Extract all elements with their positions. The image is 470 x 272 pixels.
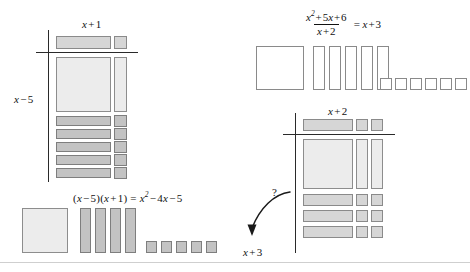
fraction-numerator: x2 + 5x + 6 — [303, 10, 350, 24]
tile-unit-square — [356, 194, 368, 206]
tile-unit-square — [371, 226, 383, 238]
tile-unit-square — [410, 78, 422, 90]
bottom-right-width-label: x + 2 — [328, 105, 347, 117]
tile-x-bar-vertical — [361, 46, 373, 90]
tile-unit-square — [356, 119, 368, 131]
bottom-right-horizontal-axis — [283, 134, 395, 135]
tile-unit-square — [440, 78, 452, 90]
tile-unit-square — [425, 78, 437, 90]
tile-unit-square — [206, 241, 217, 253]
tile-x-bar-vertical — [371, 139, 383, 189]
figure-canvas: x + 1 x − 5 (x − 5)(x + 1) = x2 − 4x − 5 — [0, 0, 470, 272]
tile-unit-square — [356, 226, 368, 238]
tile-unit-square — [161, 241, 172, 253]
tile-x-bar-vertical — [114, 57, 127, 112]
fraction: x2 + 5x + 6 x + 2 — [303, 10, 350, 38]
tile-unit-square — [455, 78, 467, 90]
tile-x-bar-vertical — [345, 46, 357, 90]
tile-unit-square — [114, 154, 127, 166]
tile-unit-square — [371, 119, 383, 131]
division-expression: x2 + 5x + 6 x + 2 = x + 3 — [303, 10, 381, 38]
tile-unit-square — [114, 128, 127, 140]
tile-x-bar-vertical — [356, 139, 368, 189]
tile-unit-square — [176, 241, 187, 253]
bottom-left-equation: (x − 5)(x + 1) = x2 − 4x − 5 — [73, 190, 182, 204]
tile-unit-square — [114, 141, 127, 153]
tile-unit-square — [395, 78, 407, 90]
fraction-denominator: x + 2 — [314, 24, 338, 38]
tile-unit-square — [191, 241, 202, 253]
tile-x-bar-vertical — [125, 208, 136, 253]
tile-x-squared — [256, 46, 304, 90]
tile-unit-square — [114, 36, 127, 49]
top-left-horizontal-axis — [36, 52, 138, 53]
bottom-right-answer-label: x + 3 — [243, 246, 262, 258]
tile-unit-square — [371, 210, 383, 222]
tile-unit-square — [371, 194, 383, 206]
tile-x-bar-vertical — [95, 208, 106, 253]
tile-x-bar-horizontal — [56, 168, 111, 178]
tile-unit-square — [114, 167, 127, 179]
bottom-frame-rule — [0, 262, 470, 263]
tile-x-bar-horizontal — [56, 36, 111, 49]
top-left-width-label: x + 1 — [82, 18, 101, 30]
tile-x-bar-vertical — [313, 46, 325, 90]
tile-x-bar-horizontal — [303, 119, 353, 131]
tile-unit-square — [146, 241, 157, 253]
tile-x-bar-horizontal — [56, 155, 111, 165]
top-left-height-label: x − 5 — [14, 93, 33, 105]
tile-x-squared — [56, 57, 111, 112]
expression-result: = x + 3 — [350, 18, 381, 30]
tile-x-bar-vertical — [80, 208, 91, 253]
tile-x-squared — [22, 208, 68, 253]
tile-x-bar-horizontal — [56, 129, 111, 139]
tile-x-bar-horizontal — [56, 116, 111, 126]
tile-unit-square — [114, 115, 127, 127]
tile-x-bar-vertical — [110, 208, 121, 253]
tile-unit-square — [356, 210, 368, 222]
tile-unit-square — [380, 78, 392, 90]
tile-x-bar-horizontal — [56, 142, 111, 152]
tile-x-bar-vertical — [329, 46, 341, 90]
